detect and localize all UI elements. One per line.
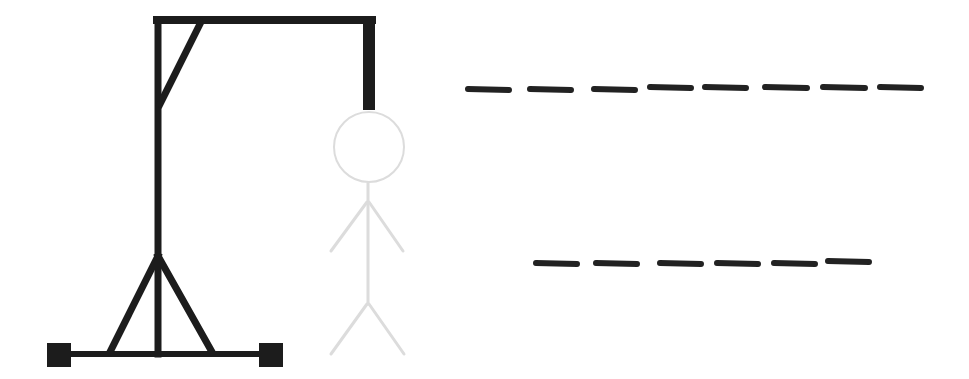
gallows-left-foot <box>47 343 71 367</box>
letter-slot <box>717 263 758 264</box>
letter-slot <box>530 89 571 90</box>
letter-slot <box>705 87 746 88</box>
gallows <box>47 16 375 367</box>
figure-head <box>334 112 404 182</box>
word-2-blanks <box>536 261 869 264</box>
letter-slot <box>774 263 815 264</box>
letter-slot <box>828 261 869 262</box>
letter-slot <box>468 89 509 90</box>
letter-slot <box>823 87 865 88</box>
figure-left-arm <box>331 202 367 251</box>
letter-slot <box>880 87 921 88</box>
gallows-brace <box>160 22 201 104</box>
letter-slot <box>536 263 577 264</box>
figure-right-leg <box>369 304 404 354</box>
letter-slot <box>765 87 807 88</box>
hangman-figure <box>331 112 404 354</box>
hangman-board <box>0 0 969 379</box>
letter-slot <box>650 87 691 88</box>
figure-left-leg <box>331 304 367 354</box>
gallows-rope <box>363 16 375 110</box>
gallows-right-foot <box>259 343 283 367</box>
gallows-right-leg <box>158 256 212 352</box>
gallows-left-leg <box>110 256 158 352</box>
letter-slot <box>594 89 635 90</box>
letter-slot <box>596 263 637 264</box>
figure-right-arm <box>369 202 403 251</box>
word-1-blanks <box>468 87 921 90</box>
letter-slot <box>660 263 701 264</box>
